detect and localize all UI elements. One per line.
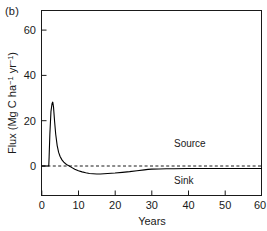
x-tick-label-50: 50: [219, 199, 231, 211]
y-tick-label-20: 20: [24, 115, 36, 127]
y-axis-title-sup1: −1: [6, 76, 15, 85]
x-axis-title: Years: [138, 215, 166, 227]
x-tick-label-0: 0: [39, 199, 45, 211]
y-axis-tick-labels: 60 40 20 0: [24, 24, 36, 172]
y-tick-label-60: 60: [24, 24, 36, 36]
x-tick-label-60: 60: [254, 199, 266, 211]
y-tick-label-0: 0: [30, 160, 36, 172]
y-axis-title-sup2: −1: [6, 56, 15, 65]
x-axis-tick-labels: 0 10 20 30 40 50 60: [39, 199, 266, 211]
y-axis-ticks: [42, 30, 47, 166]
y-tick-label-40: 40: [24, 69, 36, 81]
flux-curve-line: [42, 102, 262, 174]
figure-panel-b: (b) 60 40 20 0: [0, 0, 267, 231]
y-axis-title-mid: yr: [6, 64, 18, 77]
x-tick-label-40: 40: [182, 199, 194, 211]
x-tick-label-10: 10: [72, 199, 84, 211]
y-axis-title: Flux (Mg C ha−1 yr−1): [6, 52, 19, 154]
x-tick-label-20: 20: [109, 199, 121, 211]
x-tick-label-30: 30: [146, 199, 158, 211]
y-axis-title-suffix: ): [6, 52, 18, 56]
annotation-source: Source: [174, 138, 206, 149]
annotation-sink: Sink: [174, 175, 194, 186]
x-axis-ticks: [42, 191, 262, 196]
flux-line-chart: 60 40 20 0 0 10 20 30 40 50 60 Years: [0, 0, 267, 231]
y-axis-title-prefix: Flux (Mg C ha: [6, 84, 18, 154]
